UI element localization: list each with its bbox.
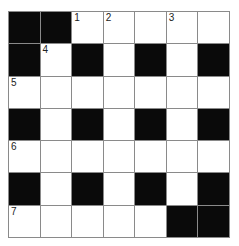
clue-number: 4: [43, 45, 49, 55]
crossword-cell[interactable]: [104, 173, 136, 205]
crossword-cell[interactable]: 7: [9, 206, 41, 238]
crossword-cell[interactable]: [41, 109, 73, 141]
black-square: [72, 109, 104, 141]
crossword-cell[interactable]: [104, 206, 136, 238]
crossword-cell[interactable]: [167, 77, 199, 109]
crossword-cell[interactable]: [198, 12, 230, 44]
crossword-cell[interactable]: 5: [9, 77, 41, 109]
crossword-cell[interactable]: [198, 77, 230, 109]
clue-number: 7: [11, 207, 17, 217]
black-square: [198, 109, 230, 141]
clue-number: 5: [11, 78, 17, 88]
crossword-cell[interactable]: [167, 44, 199, 76]
black-square: [135, 173, 167, 205]
crossword-cell[interactable]: [104, 77, 136, 109]
clue-number: 6: [11, 142, 17, 152]
crossword-cell[interactable]: [167, 173, 199, 205]
black-square: [167, 206, 199, 238]
black-square: [41, 12, 73, 44]
black-square: [9, 109, 41, 141]
crossword-cell[interactable]: [41, 141, 73, 173]
crossword-cell[interactable]: [72, 77, 104, 109]
crossword-cell[interactable]: [135, 206, 167, 238]
black-square: [135, 44, 167, 76]
crossword-cell[interactable]: [72, 206, 104, 238]
crossword-cell[interactable]: [41, 77, 73, 109]
clue-number: 3: [169, 13, 175, 23]
crossword-cell[interactable]: 6: [9, 141, 41, 173]
crossword-cell[interactable]: [167, 109, 199, 141]
crossword-cell[interactable]: [41, 173, 73, 205]
black-square: [9, 44, 41, 76]
crossword-cell[interactable]: 2: [104, 12, 136, 44]
clue-number: 1: [74, 13, 80, 23]
crossword-cell[interactable]: [104, 109, 136, 141]
crossword-cell[interactable]: [135, 141, 167, 173]
crossword-cell[interactable]: 1: [72, 12, 104, 44]
crossword-cell[interactable]: [104, 141, 136, 173]
black-square: [72, 173, 104, 205]
crossword-cell[interactable]: [72, 141, 104, 173]
crossword-cell[interactable]: [104, 44, 136, 76]
black-square: [72, 44, 104, 76]
crossword-cell[interactable]: 3: [167, 12, 199, 44]
black-square: [135, 109, 167, 141]
crossword-cell[interactable]: [135, 77, 167, 109]
black-square: [9, 173, 41, 205]
crossword-cell[interactable]: [167, 141, 199, 173]
crossword-cell[interactable]: 4: [41, 44, 73, 76]
crossword-cell[interactable]: [41, 206, 73, 238]
crossword-cell[interactable]: [135, 12, 167, 44]
black-square: [198, 173, 230, 205]
crossword-grid: 1234567: [8, 11, 230, 238]
black-square: [198, 44, 230, 76]
crossword-cell[interactable]: [198, 141, 230, 173]
black-square: [198, 206, 230, 238]
black-square: [9, 12, 41, 44]
clue-number: 2: [106, 13, 112, 23]
